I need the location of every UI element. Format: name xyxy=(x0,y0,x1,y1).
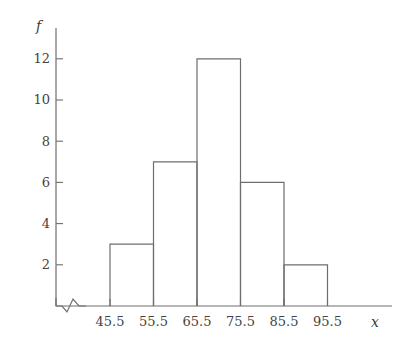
y-tick-label-12: 12 xyxy=(22,51,50,66)
y-axis-title: f xyxy=(36,18,41,34)
y-tick-label-2: 2 xyxy=(22,257,50,272)
axis-break-icon xyxy=(56,298,86,312)
x-tick-label-95-5: 95.5 xyxy=(303,314,353,329)
y-tick-label-4: 4 xyxy=(22,216,50,231)
x-tick-label-75-5: 75.5 xyxy=(216,314,266,329)
x-tick-label-55-5: 55.5 xyxy=(129,314,179,329)
x-tick-label-65-5: 65.5 xyxy=(172,314,222,329)
y-tick-label-6: 6 xyxy=(22,175,50,190)
x-tick-label-45-5: 45.5 xyxy=(85,314,135,329)
histogram-bar-4 xyxy=(241,182,285,306)
x-axis-title: x xyxy=(371,314,379,330)
y-tick-label-8: 8 xyxy=(22,134,50,149)
histogram-figure: f x 2 4 6 8 10 12 45.5 55.5 65.5 75.5 85… xyxy=(0,0,413,346)
histogram-plot-area xyxy=(0,0,413,346)
histogram-bar-1 xyxy=(110,244,154,306)
histogram-bar-5 xyxy=(284,265,328,306)
histogram-bar-3 xyxy=(197,59,241,306)
y-tick-label-10: 10 xyxy=(22,92,50,107)
x-tick-label-85-5: 85.5 xyxy=(259,314,309,329)
histogram-bar-2 xyxy=(154,162,198,306)
